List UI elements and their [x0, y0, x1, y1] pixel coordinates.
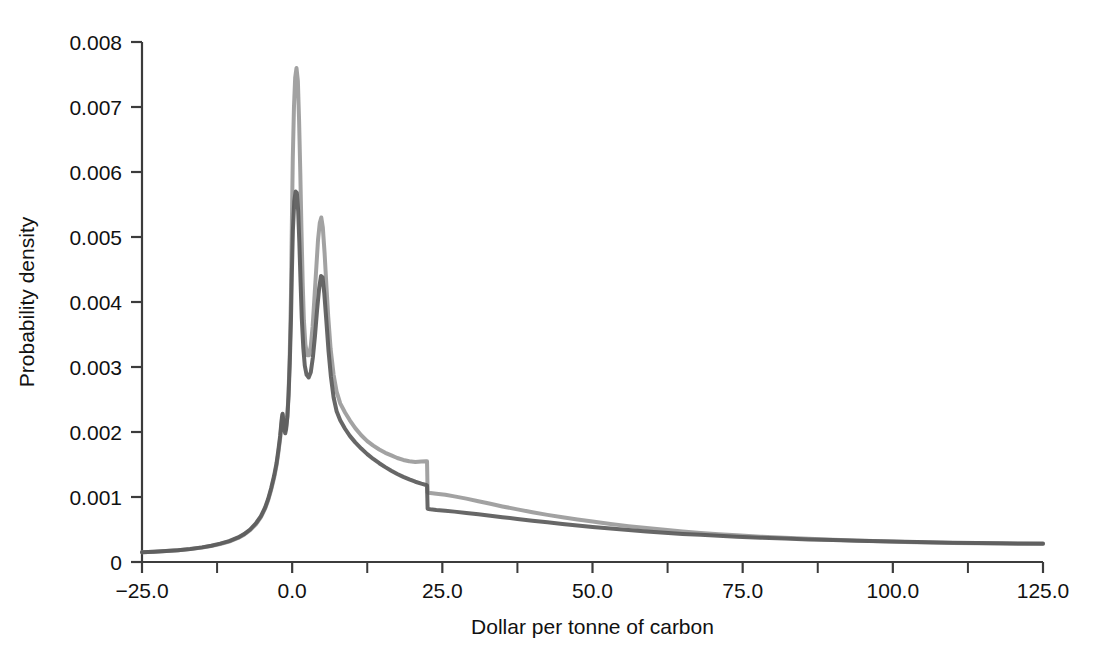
y-tick-label: 0.007 [69, 96, 122, 119]
x-tick-label: −25.0 [115, 579, 168, 602]
y-tick-label: 0.004 [69, 291, 122, 314]
x-tick-label: 100.0 [867, 579, 920, 602]
axis-labels-group: −25.00.025.050.075.0100.0125.000.0010.00… [15, 31, 1069, 638]
y-tick-label: 0 [110, 551, 122, 574]
series-line-density-light [142, 68, 1043, 552]
x-tick-label: 75.0 [722, 579, 763, 602]
y-tick-label: 0.003 [69, 356, 122, 379]
x-tick-label: 125.0 [1017, 579, 1070, 602]
x-axis-title: Dollar per tonne of carbon [471, 615, 714, 638]
y-axis-title: Probability density [15, 216, 38, 387]
figure-container: −25.00.025.050.075.0100.0125.000.0010.00… [0, 0, 1094, 652]
y-tick-label: 0.005 [69, 226, 122, 249]
y-tick-label: 0.002 [69, 421, 122, 444]
series-group [142, 68, 1043, 552]
x-tick-label: 50.0 [572, 579, 613, 602]
y-tick-label: 0.001 [69, 486, 122, 509]
series-line-density-dark [142, 192, 1043, 553]
y-tick-label: 0.006 [69, 161, 122, 184]
y-tick-label: 0.008 [69, 31, 122, 54]
x-tick-label: 0.0 [278, 579, 307, 602]
density-plot: −25.00.025.050.075.0100.0125.000.0010.00… [0, 0, 1094, 652]
x-tick-label: 25.0 [422, 579, 463, 602]
